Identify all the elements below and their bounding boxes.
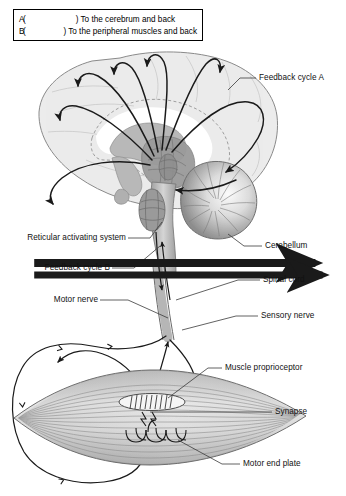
label-feedback-cycle-b: Feedback cycle B xyxy=(36,263,110,272)
label-feedback-cycle-a: Feedback cycle A xyxy=(259,73,324,82)
label-reticular-activating-system: Reticular activating system xyxy=(8,233,126,242)
legend-box: A ( ) To the cerebrum and back B ( ) To … xyxy=(13,9,203,41)
legend-open-paren-a: ( xyxy=(23,15,26,24)
legend-item-a: A ( ) To the cerebrum and back xyxy=(19,13,197,25)
label-muscle-proprioceptor: Muscle proprioceptor xyxy=(225,363,302,372)
arrow-right-icon xyxy=(27,27,63,35)
label-motor-end-plate: Motor end plate xyxy=(243,459,301,468)
legend-open-paren-b: ( xyxy=(23,27,26,36)
label-synapse: Synapse xyxy=(275,407,307,416)
label-motor-nerve: Motor nerve xyxy=(42,295,98,304)
label-spinal-cord: Spinal cord xyxy=(263,275,305,284)
legend-item-b: B ( ) To the peripheral muscles and back xyxy=(19,25,197,37)
figure-canvas: A ( ) To the cerebrum and back B ( ) To … xyxy=(0,0,346,496)
label-sensory-nerve: Sensory nerve xyxy=(261,311,314,320)
label-cerebellum: Cerebellum xyxy=(265,241,307,250)
arrow-right-icon xyxy=(27,15,75,23)
